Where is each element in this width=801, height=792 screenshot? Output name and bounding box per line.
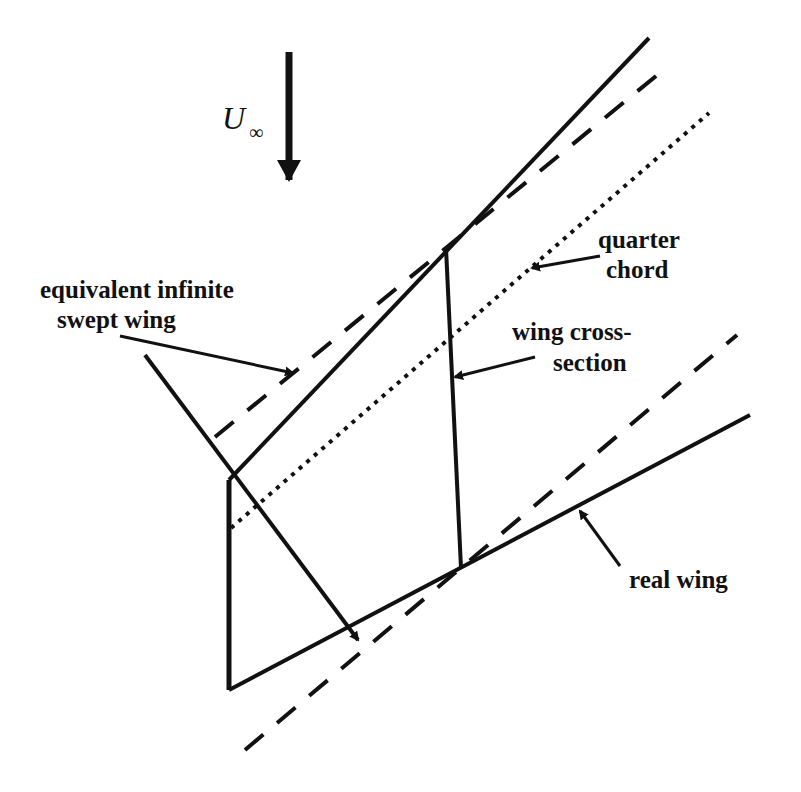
equivalent-label-line2: swept wing <box>57 306 176 334</box>
freestream-subscript: ∞ <box>249 121 263 144</box>
cross-section-label-line1: wing cross- <box>512 318 632 346</box>
equivalent-label-line1: equivalent infinite <box>40 276 234 304</box>
equivalent-swept-wing-lines <box>215 67 737 750</box>
freestream-symbol: U <box>222 100 245 137</box>
wing-cross-section-line <box>446 248 461 568</box>
wing-diagram <box>0 0 801 792</box>
cross-section-label-line2: section <box>553 349 627 377</box>
quarter-chord-line <box>231 113 709 528</box>
quarter-chord-label-line2: chord <box>606 256 669 284</box>
real-wing-leader-arrow <box>580 511 620 566</box>
cross-section-leader-arrow <box>455 357 535 377</box>
quarter-chord-label-line1: quarter <box>598 226 680 254</box>
real-wing-label: real wing <box>629 566 728 594</box>
equivalent-diagonal-arrow <box>145 355 358 640</box>
